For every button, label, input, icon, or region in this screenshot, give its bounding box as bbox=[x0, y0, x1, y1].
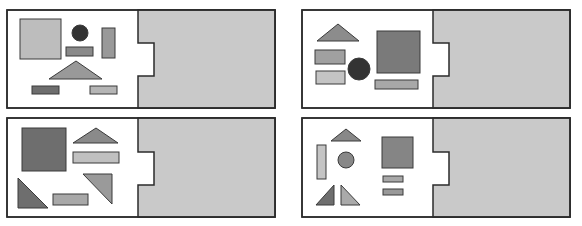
tray-region bbox=[433, 118, 570, 217]
tall-bar bbox=[317, 145, 326, 179]
dark-circle bbox=[72, 25, 88, 41]
large-square bbox=[22, 128, 66, 171]
large-square bbox=[382, 137, 413, 168]
tray-region bbox=[433, 10, 570, 108]
wide-bar bbox=[73, 152, 119, 163]
lower-bar bbox=[316, 71, 345, 84]
bottom-left-bar bbox=[32, 86, 59, 94]
gray-circle bbox=[338, 152, 354, 168]
small-bar bbox=[66, 47, 93, 56]
wide-bar bbox=[375, 80, 418, 89]
upper-bar bbox=[315, 50, 345, 64]
panel-top-left bbox=[7, 10, 275, 108]
panel-bottom-left bbox=[7, 118, 275, 217]
upper-small-bar bbox=[383, 176, 403, 182]
panel-top-right bbox=[302, 10, 570, 108]
tray-region bbox=[138, 10, 275, 108]
large-square bbox=[20, 19, 61, 59]
tall-bar bbox=[102, 28, 115, 58]
tray-region bbox=[138, 118, 275, 217]
bottom-right-bar bbox=[90, 86, 117, 94]
bottom-bar bbox=[53, 194, 88, 205]
panel-bottom-right bbox=[302, 118, 570, 217]
diagram-canvas bbox=[0, 0, 582, 226]
large-square bbox=[377, 31, 420, 73]
lower-small-bar bbox=[383, 189, 403, 195]
dark-circle bbox=[348, 58, 370, 80]
